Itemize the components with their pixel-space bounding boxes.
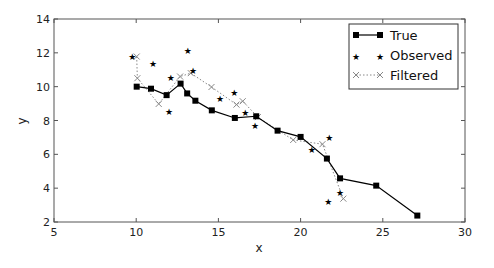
filtered-point: [240, 98, 246, 104]
x-tick-label: 25: [376, 226, 390, 239]
filtered-point: [156, 101, 162, 107]
series-true: [134, 81, 421, 219]
filtered-point: [290, 137, 296, 143]
true-point: [324, 156, 330, 162]
series-filtered: [134, 54, 347, 202]
filtered-point: [177, 74, 183, 80]
observed-point: ★: [165, 107, 173, 117]
legend-label: Observed: [390, 48, 453, 63]
observed-point: ★: [308, 145, 316, 155]
true-point: [209, 107, 215, 113]
square-marker-icon: [377, 32, 383, 38]
true-point: [178, 81, 184, 87]
x-tick-label: 20: [294, 226, 308, 239]
legend-label: Filtered: [390, 68, 438, 83]
observed-point: ★: [128, 52, 136, 62]
true-point: [373, 183, 379, 189]
y-tick-label: 8: [43, 115, 50, 128]
star-marker-icon: ★: [376, 52, 384, 62]
star-marker-icon: ★: [352, 52, 360, 62]
x-tick-label: 30: [458, 226, 472, 239]
observed-point: ★: [184, 46, 192, 56]
filtered-point: [208, 84, 214, 90]
y-tick-label: 14: [36, 13, 50, 26]
y-tick-label: 12: [36, 47, 50, 60]
observed-point: ★: [251, 121, 259, 131]
observed-point: ★: [149, 59, 157, 69]
square-marker-icon: [353, 32, 359, 38]
filtered-point: [134, 75, 140, 81]
legend-label: True: [389, 28, 418, 43]
true-point: [275, 128, 281, 134]
true-point: [414, 213, 420, 219]
filtered-point: [233, 102, 239, 108]
y-tick-label: 4: [43, 182, 50, 195]
true-point: [134, 84, 140, 90]
true-point: [298, 134, 304, 140]
true-point: [164, 92, 170, 98]
x-tick-label: 15: [211, 226, 225, 239]
true-point: [184, 90, 190, 96]
x-tick-label: 10: [129, 226, 143, 239]
observed-point: ★: [216, 94, 224, 104]
observed-point: ★: [189, 66, 197, 76]
legend: True ★ ★ Observed Filtered: [349, 24, 458, 89]
y-axis-label: y: [15, 117, 29, 124]
observed-point: ★: [325, 133, 333, 143]
line-chart: ★★★★★★★★★★★★★★ 510152025302468101214 x y…: [0, 0, 494, 268]
x-tick-label: 5: [51, 226, 58, 239]
observed-point: ★: [167, 73, 175, 83]
y-tick-label: 6: [43, 148, 50, 161]
observed-point: ★: [230, 88, 238, 98]
true-point: [192, 98, 198, 104]
y-tick-label: 10: [36, 81, 50, 94]
y-tick-label: 2: [43, 216, 50, 229]
series-observed: ★★★★★★★★★★★★★★: [128, 46, 344, 208]
observed-point: ★: [336, 188, 344, 198]
true-point: [232, 115, 238, 121]
observed-point: ★: [241, 108, 249, 118]
true-point: [253, 113, 259, 119]
x-axis-label: x: [255, 241, 262, 255]
true-point: [148, 86, 154, 92]
observed-point: ★: [324, 197, 332, 207]
true-point: [337, 175, 343, 181]
